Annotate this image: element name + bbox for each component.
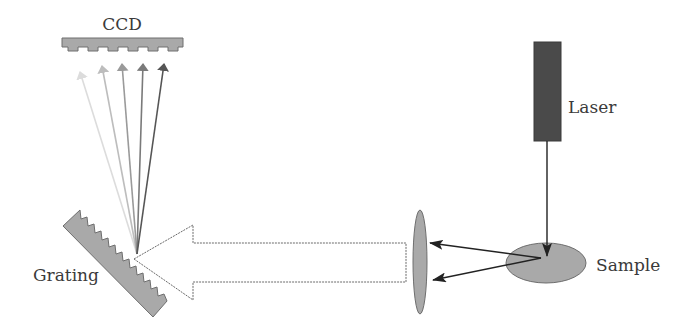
- ccd-label: CCD: [102, 14, 142, 34]
- sample-label: Sample: [596, 255, 660, 275]
- laser-label: Laser: [568, 97, 617, 117]
- lens-icon: [413, 210, 427, 314]
- ray-3: [122, 64, 137, 254]
- ray-4: [137, 64, 143, 254]
- laser-source-icon: [534, 42, 561, 141]
- ray-5: [137, 64, 164, 254]
- grating-label: Grating: [33, 265, 99, 285]
- hollow-arrow-icon: [134, 225, 406, 300]
- ccd-detector-icon: [62, 38, 183, 51]
- raman-spectrometer-diagram: CCD Grating Laser Sample: [0, 0, 688, 336]
